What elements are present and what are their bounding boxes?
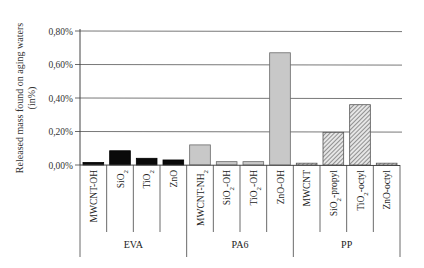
bar-pa6-tio2-oh (243, 162, 264, 165)
gridline (80, 98, 402, 99)
category-label: MWCNT-NH2 (196, 170, 210, 226)
category-label: ZnO-OH (276, 170, 286, 204)
group-label-eva: EVA (124, 239, 144, 250)
y-axis-title-line: Released mass found on aging waters (14, 23, 25, 173)
category-label: SiO2-OH (222, 170, 236, 205)
y-axis-title: Released mass found on aging waters(in%) (14, 23, 38, 173)
category-label: SiO2 (116, 170, 130, 189)
bar-pp-sio2-propyl (323, 132, 344, 165)
category-label: ZnO (169, 170, 179, 188)
group-label-pa6: PA6 (232, 239, 249, 250)
gridline (80, 31, 402, 32)
bar-pa6-mwcnt-nh2 (190, 145, 211, 165)
bar-pp-zno-octyl (376, 163, 397, 165)
y-tick-label: 0,00% (48, 161, 73, 171)
group-labels: EVAPA6PP (124, 239, 353, 250)
y-tick-label: 0,40% (48, 94, 73, 104)
bar-pa6-zno-oh (270, 53, 291, 165)
category-label: MWCNT (302, 170, 312, 207)
category-label: TiO2 (142, 170, 156, 189)
group-label-pp: PP (341, 239, 353, 250)
y-tick-label: 0,20% (48, 127, 73, 137)
y-tick-label: 0,60% (48, 60, 73, 70)
y-tick-label: 0,80% (48, 27, 73, 37)
bar-chart: Released mass found on aging waters(in%)… (0, 0, 424, 268)
y-axis-title-line: (in%) (26, 87, 38, 110)
gridline (80, 65, 402, 66)
bar-eva-zno (163, 160, 184, 165)
category-label: TiO2-octyl (356, 170, 370, 211)
bar-pp-mwcnt (296, 163, 317, 165)
category-label: TiO2-OH (249, 170, 263, 206)
bar-eva-tio2 (136, 158, 157, 165)
category-label: MWCNT-OH (89, 170, 99, 223)
y-axis-ticks: 0,00%0,20%0,40%0,60%0,80% (48, 27, 80, 171)
category-label: SiO2-propyl (329, 170, 343, 217)
bar-pa6-sio2-oh (216, 162, 237, 165)
bars (83, 53, 397, 165)
category-label: ZnO-octyl (382, 170, 392, 210)
bar-pp-tio2-octyl (350, 105, 371, 165)
bar-eva-sio2 (110, 151, 131, 165)
